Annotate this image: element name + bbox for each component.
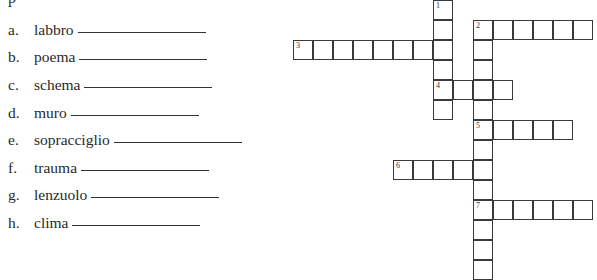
crossword-cell[interactable]	[473, 140, 493, 160]
crossword-cell[interactable]: 2	[473, 20, 493, 40]
crossword-cell[interactable]	[493, 200, 513, 220]
crossword-cell[interactable]	[513, 20, 533, 40]
crossword-cell[interactable]	[533, 120, 553, 140]
crossword-cell[interactable]	[433, 160, 453, 180]
crossword-cell[interactable]	[393, 40, 413, 60]
crossword-cell[interactable]	[573, 200, 593, 220]
clue-number: 4	[436, 81, 440, 90]
crossword-cell[interactable]	[493, 120, 513, 140]
crossword-cell[interactable]	[433, 20, 453, 40]
crossword-cell[interactable]	[573, 20, 593, 40]
clue-number: 2	[476, 21, 480, 30]
clue-number: 7	[476, 201, 480, 210]
clue-number: 3	[296, 41, 300, 50]
crossword-cell[interactable]	[453, 80, 473, 100]
crossword-cell[interactable]	[413, 40, 433, 60]
crossword-cell[interactable]	[533, 20, 553, 40]
crossword-cell[interactable]	[333, 40, 353, 60]
crossword-cell[interactable]: 1	[433, 0, 453, 20]
crossword-cell[interactable]	[553, 200, 573, 220]
crossword-cell[interactable]	[473, 60, 493, 80]
crossword-cell[interactable]	[473, 220, 493, 240]
crossword-cell[interactable]	[473, 240, 493, 260]
crossword-cell[interactable]	[473, 260, 493, 280]
crossword-cell[interactable]	[413, 160, 433, 180]
crossword-cell[interactable]: 3	[293, 40, 313, 60]
crossword-cell[interactable]: 7	[473, 200, 493, 220]
crossword-cell[interactable]	[473, 180, 493, 200]
clue-number: 6	[396, 161, 400, 170]
crossword-cell[interactable]	[433, 100, 453, 120]
crossword-cell[interactable]: 6	[393, 160, 413, 180]
crossword-cell[interactable]	[433, 40, 453, 60]
crossword-cell[interactable]	[553, 120, 573, 140]
crossword-cell[interactable]	[433, 60, 453, 80]
crossword-cell[interactable]: 4	[433, 80, 453, 100]
crossword-cell[interactable]	[513, 200, 533, 220]
crossword-cell[interactable]	[473, 160, 493, 180]
crossword-cell[interactable]	[353, 40, 373, 60]
crossword-cell[interactable]	[473, 40, 493, 60]
crossword-cell[interactable]: 5	[473, 120, 493, 140]
crossword-cell[interactable]	[493, 80, 513, 100]
crossword-cell[interactable]	[473, 80, 493, 100]
crossword-cell[interactable]	[453, 160, 473, 180]
crossword-cell[interactable]	[513, 120, 533, 140]
crossword-cell[interactable]	[553, 20, 573, 40]
crossword-cell[interactable]	[313, 40, 333, 60]
clue-number: 1	[436, 1, 440, 10]
crossword-cell[interactable]	[493, 20, 513, 40]
crossword-cell[interactable]	[473, 100, 493, 120]
crossword-cell[interactable]	[533, 200, 553, 220]
crossword-cell[interactable]	[373, 40, 393, 60]
clue-number: 5	[476, 121, 480, 130]
